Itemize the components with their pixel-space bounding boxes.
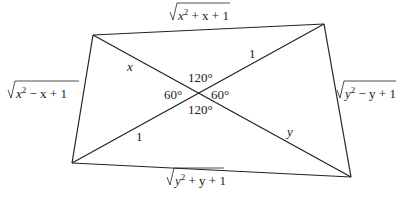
quadrilateral-diagram: x2 + x + 1 x2 − x + 1 y2 − y + 1 y2 + y … — [0, 0, 415, 198]
angle-label-bottom: 120° — [188, 102, 213, 117]
side-label-left: x2 − x + 1 — [8, 81, 79, 101]
svg-text:x2 + x + 1: x2 + x + 1 — [177, 7, 229, 23]
segment-label-lower-left: 1 — [136, 129, 143, 144]
side-label-right: y2 − y + 1 — [337, 81, 396, 101]
segment-label-lower-right: y — [285, 124, 293, 139]
side-left — [72, 35, 93, 163]
angle-label-top: 120° — [188, 70, 213, 85]
svg-text:x2 − x + 1: x2 − x + 1 — [15, 85, 67, 101]
svg-text:y2 − y + 1: y2 − y + 1 — [343, 85, 396, 101]
svg-text:y2 + y + 1: y2 + y + 1 — [173, 172, 226, 188]
side-top — [93, 24, 324, 35]
angle-label-right: 60° — [211, 87, 229, 102]
side-label-bottom: y2 + y + 1 — [167, 168, 226, 188]
side-label-top: x2 + x + 1 — [170, 3, 230, 23]
angle-label-left: 60° — [164, 87, 182, 102]
diagonal-tl-br — [93, 35, 351, 177]
segment-label-upper-left: x — [126, 59, 133, 74]
segment-label-upper-right: 1 — [249, 46, 256, 61]
